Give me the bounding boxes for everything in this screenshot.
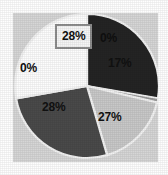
data-label-27: 27% (98, 111, 121, 123)
data-label-0-left: 0% (20, 62, 37, 74)
data-label-28-top: 28% (55, 24, 92, 49)
data-label-17: 17% (108, 57, 131, 69)
data-label-0-top-right: 0% (100, 32, 117, 44)
pie-chart-figure: 28% 0% 17% 27% 28% 0% (0, 0, 168, 175)
data-label-28-bottom: 28% (42, 101, 65, 113)
